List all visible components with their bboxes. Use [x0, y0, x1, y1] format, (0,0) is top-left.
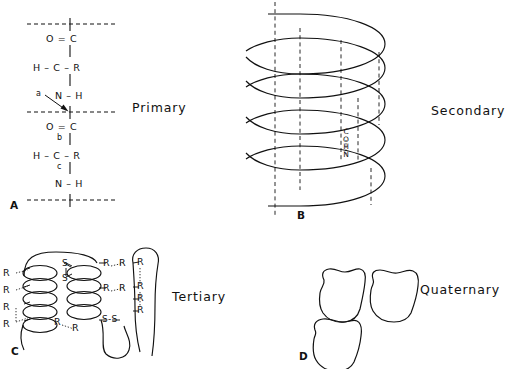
bond-a-arrow-head: [61, 105, 69, 112]
residue-2-amide: N – H: [55, 178, 83, 189]
helix-turn-5: [246, 146, 385, 206]
panel-c-level-label: Tertiary: [172, 289, 226, 304]
residue-1-amide: N – H: [55, 90, 83, 101]
panel-b-secondary: C O H N Secondary B: [253, 0, 506, 230]
r-group-mid-1b: R: [119, 257, 126, 268]
residue-1-carbonyl: O = C: [46, 33, 77, 44]
panel-c-tertiary: R R R R R R S S R R R R R R R R S-S Tert…: [0, 230, 253, 369]
panel-b-level-label: Secondary: [431, 103, 505, 118]
r-group-mid-1a: R: [103, 257, 110, 268]
r-group-left-2: R: [3, 284, 10, 295]
panel-b-letter: B: [297, 209, 305, 221]
sulfur-upper: S: [62, 258, 68, 268]
r-group-left-3: R: [3, 301, 10, 312]
chain-left-outer-loop: [24, 252, 97, 276]
panel-c-letter: C: [11, 345, 19, 357]
chain-left-tail: [21, 325, 24, 350]
bond-label-a: a: [36, 89, 41, 98]
disulfide-lower: S-S: [102, 314, 118, 324]
residue-2-alpha-carbon: H – C – R: [33, 150, 80, 161]
r-group-hairpin-3: R: [137, 292, 144, 303]
panel-d-drawing: [253, 230, 506, 369]
protein-structure-figure: O = C H – C – R N – H a O = C b H – C – …: [0, 0, 506, 369]
r-group-mid-2b: R: [119, 282, 126, 293]
hbond-atom-n: N: [341, 151, 351, 159]
r-group-left-1: R: [3, 267, 10, 278]
panel-a-primary: O = C H – C – R N – H a O = C b H – C – …: [0, 0, 253, 230]
helix-turn-1: [246, 14, 385, 74]
subunit-2: [370, 270, 418, 322]
residue-2-carbonyl: O = C: [46, 121, 77, 132]
bond-label-b: b: [57, 133, 62, 142]
sulfur-lower: S: [62, 273, 68, 283]
hbond-atom-stack: C O H N: [341, 128, 351, 158]
r-group-interior-2: R: [72, 322, 79, 333]
panel-a-level-label: Primary: [132, 100, 187, 115]
panel-d-quaternary: Quaternary D: [253, 230, 506, 369]
r-group-hairpin-4: R: [137, 304, 144, 315]
r-group-left-4: R: [3, 318, 10, 329]
stub-left-r2: [24, 285, 30, 287]
panel-a-letter: A: [10, 199, 18, 211]
panel-d-level-label: Quaternary: [420, 282, 500, 297]
r-group-mid-2a: R: [103, 282, 110, 293]
helix-turn-4: [246, 110, 385, 170]
r-group-hairpin-1: R: [137, 256, 144, 267]
helix-turn-2: [246, 38, 385, 98]
r-interaction-left-1: [16, 270, 28, 273]
r-group-hairpin-2: R: [137, 280, 144, 291]
subunit-3: [313, 319, 361, 369]
chain-lower-lobe: [101, 320, 130, 358]
bond-label-c: c: [57, 162, 61, 171]
panel-a-drawing: [0, 0, 253, 230]
subunit-1: [319, 269, 365, 322]
r-group-interior-1: R: [54, 316, 61, 327]
panel-d-letter: D: [299, 350, 308, 362]
helix-turn-3: [246, 74, 385, 134]
residue-1-alpha-carbon: H – C – R: [33, 62, 80, 73]
